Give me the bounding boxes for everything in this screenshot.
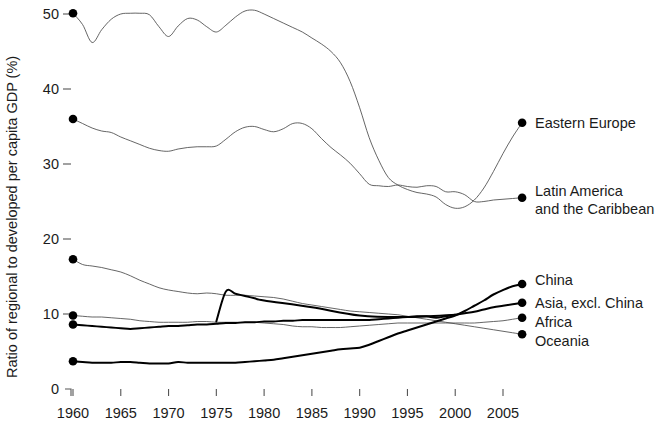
series-label-latin-america-line2: and the Caribbean [535, 201, 654, 217]
x-tick-label: 1975 [200, 405, 232, 421]
series-label-china: China [535, 272, 574, 288]
series-label-eastern-europe: Eastern Europe [535, 115, 636, 131]
y-tick-label: 30 [43, 156, 59, 172]
y-tick-label: 40 [43, 81, 59, 97]
series-start-marker-latin-america-and-the-caribbean [69, 115, 78, 124]
series-end-marker-china [518, 280, 527, 289]
series-line-latin-america-and-the-caribbean [73, 119, 522, 202]
series-label-asia: Asia, excl. China [535, 295, 644, 311]
y-tick-label: 0 [51, 381, 59, 397]
series-end-marker-oceania [518, 330, 527, 339]
series-line-eastern-europe [73, 10, 522, 208]
y-axis-title: Ratio of regional to developed per capit… [4, 56, 20, 378]
y-axis-origin-corner [65, 389, 71, 396]
x-tick-label: 1985 [296, 405, 328, 421]
series-layer [69, 9, 527, 366]
x-tick-label: 1960 [57, 405, 89, 421]
x-tick-label: 1995 [391, 405, 423, 421]
series-line-africa [73, 316, 522, 328]
y-tick-label: 10 [43, 306, 59, 322]
series-start-marker-oceania [69, 255, 78, 264]
y-tick-label: 20 [43, 231, 59, 247]
y-tick-label: 50 [43, 6, 59, 22]
series-end-marker-asia-excl-china [518, 298, 527, 307]
series-start-marker-africa [69, 311, 78, 320]
x-tick-label: 2005 [487, 405, 519, 421]
x-axis-tick-labels: 1960196519701975198019851990199520002005 [57, 405, 519, 421]
series-label-oceania: Oceania [535, 333, 590, 349]
series-start-marker-asia-excl-china [69, 320, 78, 329]
series-end-marker-africa [518, 313, 527, 322]
series-start-marker-eastern-europe [69, 9, 78, 18]
chart-container: Ratio of regional to developed per capit… [0, 0, 660, 428]
x-tick-label: 1980 [248, 405, 280, 421]
x-tick-label: 1970 [152, 405, 184, 421]
x-tick-label: 1990 [344, 405, 376, 421]
x-tick-label: 2000 [439, 405, 471, 421]
line-chart: Ratio of regional to developed per capit… [0, 0, 660, 428]
series-start-marker-china [69, 357, 78, 366]
series-label-latin-america-line1: Latin America [535, 183, 624, 199]
series-end-marker-latin-america-and-the-caribbean [518, 193, 527, 202]
series-label-africa: Africa [535, 314, 573, 330]
x-tick-label: 1965 [105, 405, 137, 421]
series-end-marker-eastern-europe [518, 118, 527, 127]
y-axis-ticks: 50 40 30 20 10 0 [43, 6, 71, 397]
series-line-china-early-spike-segment [216, 290, 455, 322]
x-axis-ticks [73, 389, 503, 396]
